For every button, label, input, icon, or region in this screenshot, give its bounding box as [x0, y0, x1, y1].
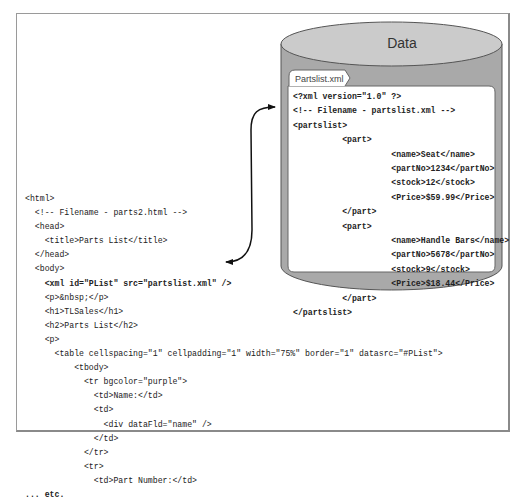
html-line: <td>Part Number:</td>	[25, 474, 443, 488]
html-line-etc: ... etc.	[25, 488, 443, 501]
html-line: <tr>	[25, 460, 443, 474]
